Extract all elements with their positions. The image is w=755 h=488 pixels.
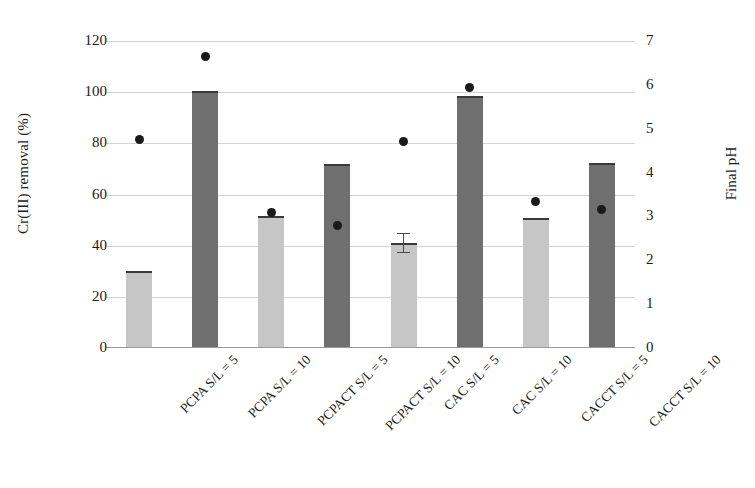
gridline bbox=[106, 195, 635, 196]
gridline bbox=[106, 41, 635, 42]
y-axis-right-tick-label: 2 bbox=[646, 252, 686, 267]
ph-marker bbox=[465, 83, 474, 92]
bar bbox=[391, 243, 417, 348]
error-bar-whisker-bottom bbox=[397, 252, 410, 254]
y-axis-left-tick-label: 100 bbox=[47, 84, 107, 99]
x-axis-category-labels: PCPA S/L = 5PCPA S/L = 10PCPACT S/L = 5P… bbox=[106, 352, 635, 488]
y-axis-left-tick-label: 80 bbox=[47, 135, 107, 150]
x-axis-tick-label: CACCT S/L = 10 bbox=[646, 352, 724, 430]
gridline bbox=[106, 92, 635, 93]
gridline bbox=[106, 143, 635, 144]
bar bbox=[324, 164, 350, 348]
x-axis-tick-label: CAC S/L = 10 bbox=[509, 352, 575, 418]
bar bbox=[126, 271, 152, 348]
error-bar bbox=[403, 233, 405, 253]
plot-area bbox=[106, 41, 635, 348]
error-bar-whisker-top bbox=[397, 233, 410, 235]
x-axis-tick-label: PCPA S/L = 5 bbox=[177, 352, 242, 417]
ph-marker bbox=[201, 52, 210, 61]
ph-marker bbox=[333, 221, 342, 230]
y-axis-left-tick-label: 120 bbox=[47, 33, 107, 48]
ph-marker bbox=[531, 197, 540, 206]
y-axis-left-tick-label: 40 bbox=[47, 238, 107, 253]
gridline bbox=[106, 246, 635, 247]
ph-marker bbox=[267, 208, 276, 217]
x-axis-line bbox=[106, 347, 635, 348]
x-axis-tick-label: PCPACT S/L = 5 bbox=[315, 352, 392, 429]
x-axis-tick-label: CACCT S/L = 5 bbox=[578, 352, 652, 426]
ph-marker bbox=[399, 137, 408, 146]
bar bbox=[523, 218, 549, 348]
bar-cap bbox=[457, 96, 483, 98]
bar-cap bbox=[192, 91, 218, 93]
y-axis-right-tick-label: 7 bbox=[646, 33, 686, 48]
bar bbox=[457, 96, 483, 348]
bar-cap bbox=[126, 271, 152, 273]
y-axis-left-tick-label: 20 bbox=[47, 289, 107, 304]
y-axis-right-tick-label: 1 bbox=[646, 296, 686, 311]
x-axis-tick-label: PCPA S/L = 10 bbox=[245, 352, 314, 421]
y-axis-right-tick-label: 0 bbox=[646, 340, 686, 355]
bar bbox=[192, 91, 218, 348]
ph-marker bbox=[135, 135, 144, 144]
bar-cap bbox=[324, 164, 350, 166]
bar-cap bbox=[523, 218, 549, 220]
y-axis-left-title: Cr(III) removal (%) bbox=[15, 59, 32, 289]
y-axis-right-tick-label: 5 bbox=[646, 121, 686, 136]
gridline bbox=[106, 297, 635, 298]
y-axis-right-tick-label: 3 bbox=[646, 208, 686, 223]
chart-figure: Cr(III) removal (%) Final pH 02040608010… bbox=[0, 0, 755, 488]
y-axis-right-tick-label: 4 bbox=[646, 165, 686, 180]
bar bbox=[258, 216, 284, 348]
y-axis-right-title: Final pH bbox=[723, 59, 740, 289]
bar-cap bbox=[589, 163, 615, 165]
bar-cap bbox=[258, 216, 284, 218]
y-axis-left-tick-label: 60 bbox=[47, 187, 107, 202]
y-axis-left-tick-label: 0 bbox=[47, 340, 107, 355]
bar bbox=[589, 163, 615, 348]
y-axis-right-tick-label: 6 bbox=[646, 77, 686, 92]
